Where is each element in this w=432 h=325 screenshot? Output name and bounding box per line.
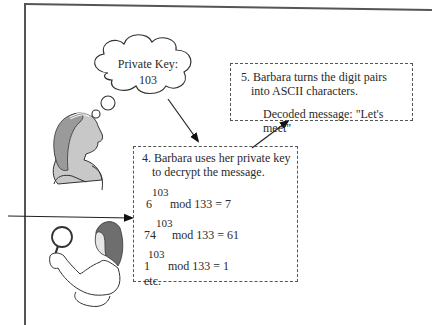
equation-3: 103 1 mod 133 = 1	[142, 247, 297, 274]
cloud-line-2: 103	[100, 72, 196, 88]
equation-result: mod 133 = 61	[172, 228, 239, 242]
equation-1: 103 6 mod 133 = 7	[142, 185, 297, 212]
woman-thinking-icon	[53, 113, 102, 190]
step5-line-2: into ASCII characters.	[241, 84, 412, 98]
equation-exponent: 103	[148, 247, 165, 261]
private-key-cloud-text: Private Key: 103	[100, 56, 196, 88]
equation-result: mod 133 = 7	[170, 197, 231, 211]
equation-2: 103 74 mod 133 = 61	[142, 216, 297, 243]
arrow-intercept-to-step4	[8, 216, 132, 218]
equation-base: 74	[144, 228, 156, 242]
arrow-cloud-to-step4	[168, 99, 198, 141]
woman-magnifying-glass-icon	[50, 222, 123, 307]
equation-base: 6	[146, 197, 152, 211]
cloud-line-1: Private Key:	[100, 56, 196, 72]
step4-line-2: to decrypt the message.	[142, 165, 297, 179]
step5-box: 5. Barbara turns the digit pairs into AS…	[230, 63, 413, 121]
equation-exponent: 103	[156, 216, 173, 230]
step4-box: 4. Barbara uses her private key to decry…	[133, 146, 298, 282]
equation-base: 1	[144, 259, 150, 273]
etc-text: etc.	[142, 274, 297, 288]
decoded-message: Decoded message: "Let's meet"	[241, 107, 412, 135]
equation-result: mod 133 = 1	[168, 259, 229, 273]
equation-exponent: 103	[152, 185, 169, 199]
step5-line-1: 5. Barbara turns the digit pairs	[241, 70, 412, 84]
step4-line-1: 4. Barbara uses her private key	[142, 151, 297, 165]
